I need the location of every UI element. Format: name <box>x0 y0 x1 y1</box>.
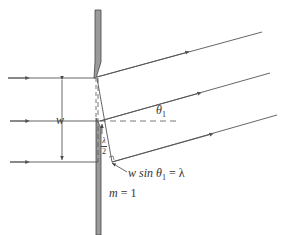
diffraction-diagram <box>0 0 289 235</box>
angle-label: θ1 <box>156 104 166 119</box>
pointer-line <box>112 163 127 172</box>
barrier-top <box>94 10 101 78</box>
half-wavelength-label: λ2 <box>101 133 107 156</box>
path-difference-label: w sin θ1 = λ <box>128 167 185 182</box>
order-label: m = 1 <box>109 187 136 199</box>
slit-width-label: w <box>56 114 64 126</box>
